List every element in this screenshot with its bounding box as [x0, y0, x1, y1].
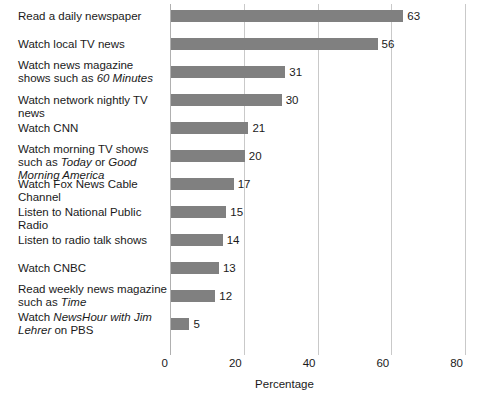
category-label: Read a daily newspaper [18, 10, 168, 23]
category-label: Listen to National Public Radio [18, 206, 168, 232]
category-label: Watch morning TV shows such as Today or … [18, 143, 168, 182]
category-label: Listen to radio talk shows [18, 234, 168, 247]
bar-value-label: 12 [219, 290, 232, 302]
plot-area: 63563130212017151413125 [170, 0, 477, 355]
bar [171, 94, 282, 106]
bar-value-label: 17 [238, 178, 251, 190]
bar-value-label: 21 [252, 122, 265, 134]
bar [171, 122, 248, 134]
bar [171, 66, 285, 78]
category-label: Read weekly news magazine such as Time [18, 283, 168, 309]
bar [171, 234, 223, 246]
x-tick-60: 60 [359, 357, 389, 369]
bar [171, 150, 245, 162]
bar [171, 262, 219, 274]
bar [171, 318, 189, 330]
gridline-40 [318, 4, 319, 355]
category-label: Watch Fox News Cable Channel [18, 178, 168, 204]
bar [171, 38, 378, 50]
bar [171, 10, 403, 22]
bar-value-label: 14 [227, 234, 240, 246]
gridline-60 [391, 4, 392, 355]
bar [171, 290, 215, 302]
x-tick-80: 80 [433, 357, 463, 369]
bar [171, 206, 226, 218]
bar-value-label: 31 [289, 66, 302, 78]
bar-value-label: 13 [223, 262, 236, 274]
bar-value-label: 30 [286, 94, 299, 106]
x-axis-title-text: Percentage [255, 378, 314, 390]
category-label: Watch local TV news [18, 38, 168, 51]
bar [171, 178, 234, 190]
bar-value-label: 20 [249, 150, 262, 162]
category-label: Watch CNN [18, 122, 168, 135]
x-axis-title: Percentage [0, 378, 477, 390]
category-label: Watch news magazine shows such as 60 Min… [18, 59, 168, 85]
bar-value-label: 56 [382, 38, 395, 50]
x-tick-20: 20 [212, 357, 242, 369]
bar-chart: Read a daily newspaperWatch local TV new… [0, 0, 477, 410]
category-label: Watch network nightly TV news [18, 94, 168, 120]
bar-value-label: 15 [230, 206, 243, 218]
category-label: Watch CNBC [18, 262, 168, 275]
category-label: Watch NewsHour with Jim Lehrer on PBS [18, 311, 168, 337]
x-tick-0: 0 [138, 357, 168, 369]
bar-value-label: 63 [407, 10, 420, 22]
gridline-80 [465, 4, 466, 355]
x-tick-40: 40 [286, 357, 316, 369]
bar-value-label: 5 [193, 318, 199, 330]
